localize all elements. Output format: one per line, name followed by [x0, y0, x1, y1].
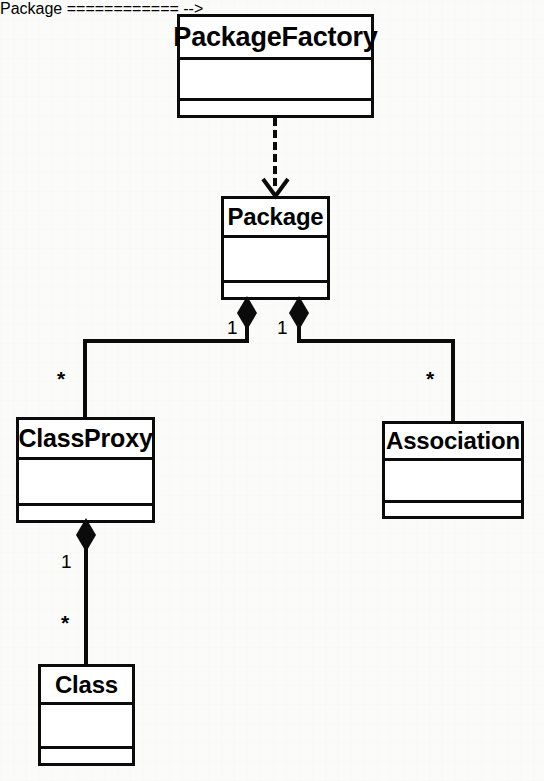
uml-class-name-association: Association [385, 424, 521, 461]
uml-class-name-package: Package [224, 199, 327, 238]
uml-class-package[interactable]: Package [221, 196, 330, 300]
multiplicity-label-association-target: * [426, 368, 434, 389]
uml-class-class[interactable]: Class [38, 664, 135, 766]
uml-class-name-packagefactory: PackageFactory [180, 17, 371, 60]
dependency-arrowhead-icon [260, 176, 292, 200]
multiplicity-label-package-classproxy-source: 1 [227, 318, 238, 337]
uml-attributes-compartment-package [224, 238, 327, 283]
composition-line-package-association-v2 [451, 339, 455, 423]
multiplicity-label-classproxy-target: * [57, 368, 65, 389]
composition-diamond-package-association-icon [288, 296, 310, 330]
composition-diamond-package-classproxy-icon [236, 296, 258, 330]
uml-attributes-compartment-class [41, 705, 132, 749]
uml-class-packagefactory[interactable]: PackageFactory [177, 14, 374, 118]
multiplicity-label-classproxy-class-source: 1 [61, 552, 72, 571]
uml-class-classproxy[interactable]: ClassProxy [16, 417, 155, 523]
composition-line-package-association-h [297, 339, 455, 343]
uml-operations-compartment-association [385, 503, 521, 516]
uml-operations-compartment-packagefactory [180, 101, 371, 115]
uml-operations-compartment-class [41, 749, 132, 763]
uml-operations-compartment-package [224, 283, 327, 298]
uml-diagram-canvas: Package ============ --> PackageFactory … [0, 0, 544, 781]
uml-class-association[interactable]: Association [382, 421, 524, 519]
multiplicity-label-classproxy-class-target: * [61, 612, 69, 633]
uml-attributes-compartment-packagefactory [180, 60, 371, 101]
uml-attributes-compartment-association [385, 461, 521, 503]
uml-class-name-class: Class [41, 667, 132, 705]
uml-attributes-compartment-classproxy [19, 460, 152, 506]
composition-line-package-classproxy-v2 [83, 339, 87, 419]
composition-line-package-classproxy-h [83, 339, 249, 343]
multiplicity-label-package-association-source: 1 [277, 318, 288, 337]
uml-class-name-classproxy: ClassProxy [19, 420, 152, 460]
composition-line-classproxy-class [84, 548, 88, 666]
composition-diamond-classproxy-class-icon [75, 518, 97, 552]
